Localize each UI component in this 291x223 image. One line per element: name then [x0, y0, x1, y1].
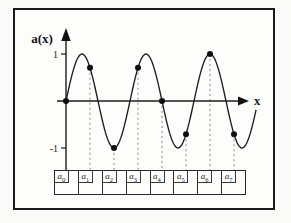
array-cell-label-a2: a2 — [103, 171, 117, 183]
array-cell-label-a7: a7 — [222, 171, 236, 183]
cell-label-subscript: 4 — [158, 176, 161, 183]
sample-dot-a4 — [159, 98, 165, 104]
x-axis-label: x — [254, 94, 261, 108]
y-tick-label-plus1: 1 — [53, 49, 58, 60]
sample-dash-lines — [90, 54, 234, 170]
sample-dot-a6 — [207, 51, 213, 57]
sample-dot-a3 — [135, 65, 141, 71]
array-cell-a6: a6 — [198, 171, 222, 194]
array-cell-label-a5: a5 — [174, 171, 188, 183]
x-axis-arrowhead-icon — [238, 97, 249, 106]
array-cell-label-a1: a1 — [79, 171, 93, 183]
array-cell-a1: a1 — [79, 171, 103, 194]
array-cell-a3: a3 — [127, 171, 151, 194]
cell-label-subscript: 0 — [62, 176, 65, 183]
array-cell-a0: a0 — [55, 171, 79, 194]
sample-dot-a5 — [183, 131, 189, 137]
scanned-figure-page: { "chart_data": { "type": "line", "title… — [0, 0, 291, 223]
cell-label-subscript: 2 — [110, 176, 113, 183]
array-cell-label-a4: a4 — [151, 171, 165, 183]
y-tick-label-minus1: -1 — [50, 143, 58, 154]
sample-dot-a2 — [111, 145, 117, 151]
sample-array: a0 a1 a2 a3 a4 a5 a6 a7 — [54, 170, 246, 195]
cell-label-subscript: 7 — [229, 176, 232, 183]
sample-dot-a1 — [87, 65, 93, 71]
sample-dot-a0 — [63, 98, 69, 104]
sample-dot-a7 — [231, 131, 237, 137]
y-axis-label: a(x) — [31, 31, 53, 46]
cell-label-subscript: 1 — [86, 176, 89, 183]
array-cell-a2: a2 — [103, 171, 127, 194]
cell-label-subscript: 5 — [181, 176, 184, 183]
array-cell-label-a0: a0 — [55, 171, 69, 183]
array-cell-a7: a7 — [222, 171, 245, 194]
cell-label-subscript: 6 — [205, 176, 208, 183]
array-cell-label-a3: a3 — [127, 171, 141, 183]
array-cell-label-a6: a6 — [198, 171, 212, 183]
cell-label-subscript: 3 — [134, 176, 137, 183]
y-axis-arrowhead-icon — [61, 28, 70, 41]
array-cell-a4: a4 — [151, 171, 175, 194]
array-cell-a5: a5 — [174, 171, 198, 194]
